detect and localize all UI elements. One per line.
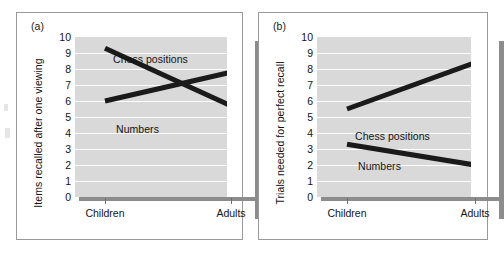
panel-a-y-axis-title: Items recalled after one viewing	[32, 40, 44, 226]
panel-a-ytick-2: 2	[51, 160, 71, 171]
panel-b-ytick-5: 5	[293, 112, 313, 123]
panel-b-ytick-10: 10	[293, 32, 313, 43]
panel-a-ytick-0: 0	[51, 192, 71, 203]
panel-a-xtick-adults	[231, 198, 232, 204]
panel-b-plot-wrapper: 10 9 8 7 6 5 4 3 2 1 0	[293, 37, 471, 215]
panel-a-ytick-9: 9	[51, 48, 71, 59]
panel-a-xlabel-adults: Adults	[216, 207, 245, 219]
panel-a-ytick-1: 1	[51, 176, 71, 187]
panel-b-ytick-3: 3	[293, 144, 313, 155]
panel-a-ytick-6: 6	[51, 96, 71, 107]
panel-b-ytick-9: 9	[293, 48, 313, 59]
panel-b-plot-shadow-right	[499, 41, 504, 219]
panel-a-label-chess-positions: Chess positions	[113, 53, 188, 65]
panel-b-plot-shadow-bottom	[321, 197, 504, 201]
panel-b-y-axis-title: Trials needed for perfect recall	[274, 40, 286, 226]
chart-panel-b: (b) Trials needed for perfect recall 10 …	[258, 12, 488, 240]
chart-panel-a: (a) Items recalled after one viewing 10 …	[16, 12, 243, 240]
panel-a-plot-shadow-bottom	[79, 197, 260, 201]
panel-b-y-tick-labels: 10 9 8 7 6 5 4 3 2 1 0	[293, 37, 313, 197]
panel-a-tag: (a)	[31, 20, 44, 32]
series-line-chess-positions	[347, 63, 471, 109]
panel-a-ytick-5: 5	[51, 112, 71, 123]
panel-b-ytick-6: 6	[293, 96, 313, 107]
panel-a-xtick-children	[105, 198, 106, 204]
scan-artifact	[4, 104, 8, 111]
panel-b-ytick-8: 8	[293, 64, 313, 75]
panel-b-label-chess-positions: Chess positions	[355, 130, 430, 142]
panel-b-label-numbers: Numbers	[358, 160, 401, 172]
panel-b-xlabel-children: Children	[327, 207, 366, 219]
panel-a-xlabel-children: Children	[85, 207, 124, 219]
panel-a-label-numbers: Numbers	[116, 123, 159, 135]
panel-b-ytick-0: 0	[293, 192, 313, 203]
panel-a-ytick-10: 10	[51, 32, 71, 43]
panel-b-plot-area	[317, 37, 471, 197]
panel-b-ytick-2: 2	[293, 160, 313, 171]
panel-b-ytick-4: 4	[293, 128, 313, 139]
panel-b-xtick-adults	[475, 198, 476, 204]
panel-a-ytick-4: 4	[51, 128, 71, 139]
panel-a-y-tick-labels: 10 9 8 7 6 5 4 3 2 1 0	[51, 37, 71, 197]
panel-b-ytick-1: 1	[293, 176, 313, 187]
panel-a-ytick-7: 7	[51, 80, 71, 91]
panel-b-series-lines	[317, 37, 471, 197]
panel-a-ytick-8: 8	[51, 64, 71, 75]
scan-artifact	[5, 128, 10, 138]
panel-b-xlabel-adults: Adults	[460, 207, 489, 219]
panel-a-ytick-3: 3	[51, 144, 71, 155]
panel-b-xtick-children	[347, 198, 348, 204]
panel-b-ytick-7: 7	[293, 80, 313, 91]
panel-b-tag: (b)	[273, 20, 286, 32]
